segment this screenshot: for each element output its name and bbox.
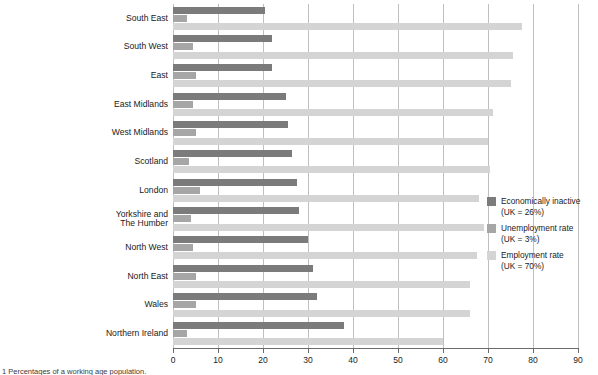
bar-unemp <box>173 158 189 165</box>
x-tick-label-50: 50 <box>383 355 413 365</box>
legend-label: Employment rate <box>501 250 595 261</box>
category-label: Scotland <box>0 157 168 167</box>
legend-item: Employment rate(UK = 70%) <box>487 250 595 271</box>
x-tick-label-10: 10 <box>203 355 233 365</box>
x-tick-label-30: 30 <box>293 355 323 365</box>
bar-inactive <box>173 293 317 300</box>
legend-sublabel: (UK = 26%) <box>501 207 595 218</box>
x-tick-label-90: 90 <box>563 355 593 365</box>
bar-employ <box>173 310 470 317</box>
bar-employ <box>173 80 511 87</box>
x-tick-label-20: 20 <box>248 355 278 365</box>
x-tick-label-60: 60 <box>428 355 458 365</box>
category-label-line: East Midlands <box>0 100 168 110</box>
legend-swatch-unemployment <box>487 224 496 233</box>
legend-swatch-inactive <box>487 197 496 206</box>
category-label: North West <box>0 243 168 253</box>
bar-inactive <box>173 150 292 157</box>
x-axis-line <box>173 348 578 349</box>
bar-employ <box>173 109 493 116</box>
bar-employ <box>173 281 470 288</box>
legend-label: Economically inactive <box>501 196 595 207</box>
bar-group <box>173 150 578 173</box>
bar-employ <box>173 52 513 59</box>
x-tick-60 <box>443 348 444 353</box>
bar-inactive <box>173 35 272 42</box>
bar-inactive <box>173 7 265 14</box>
bar-unemp <box>173 301 196 308</box>
x-tick-label-80: 80 <box>518 355 548 365</box>
bar-group <box>173 64 578 87</box>
x-tick-80 <box>533 348 534 353</box>
category-label-line: London <box>0 186 168 196</box>
category-label-line: South West <box>0 42 168 52</box>
legend-sublabel: (UK = 70%) <box>501 261 595 272</box>
bar-unemp <box>173 43 193 50</box>
category-label-line: Scotland <box>0 157 168 167</box>
bar-unemp <box>173 72 196 79</box>
bar-inactive <box>173 179 297 186</box>
legend-label: Unemployment rate <box>501 223 595 234</box>
category-label: Yorkshire andThe Humber <box>0 210 168 229</box>
category-label: Northern Ireland <box>0 329 168 339</box>
category-label-line: Northern Ireland <box>0 329 168 339</box>
x-tick-label-0: 0 <box>158 355 188 365</box>
bar-inactive <box>173 121 288 128</box>
bar-unemp <box>173 273 196 280</box>
legend-item: Unemployment rate(UK = 3%) <box>487 223 595 244</box>
category-label-line: East <box>0 71 168 81</box>
bar-inactive <box>173 64 272 71</box>
x-tick-10 <box>218 348 219 353</box>
bar-employ <box>173 23 522 30</box>
x-tick-0 <box>173 348 174 353</box>
bar-unemp <box>173 244 193 251</box>
chart-legend: Economically inactive(UK = 26%)Unemploym… <box>487 196 595 277</box>
category-label-line: South East <box>0 14 168 24</box>
category-label: East Midlands <box>0 100 168 110</box>
category-label: South East <box>0 14 168 24</box>
x-tick-30 <box>308 348 309 353</box>
bar-inactive <box>173 207 299 214</box>
category-label: Wales <box>0 300 168 310</box>
category-label: West Midlands <box>0 128 168 138</box>
chart-footnote: 1 Percentages of a working age populatio… <box>2 368 596 375</box>
bar-group <box>173 35 578 58</box>
x-tick-label-40: 40 <box>338 355 368 365</box>
bar-inactive <box>173 322 344 329</box>
bar-unemp <box>173 330 187 337</box>
legend-sublabel: (UK = 3%) <box>501 234 595 245</box>
category-label: South West <box>0 42 168 52</box>
bar-unemp <box>173 215 191 222</box>
category-label-line: The Humber <box>0 219 168 229</box>
bar-employ <box>173 138 488 145</box>
plot-area <box>173 4 578 348</box>
x-tick-90 <box>578 348 579 353</box>
bar-employ <box>173 166 490 173</box>
bar-inactive <box>173 93 286 100</box>
bar-employ <box>173 224 484 231</box>
bar-group <box>173 322 578 345</box>
category-label-line: North West <box>0 243 168 253</box>
category-label: North East <box>0 272 168 282</box>
bar-group <box>173 7 578 30</box>
bar-inactive <box>173 236 308 243</box>
bar-inactive <box>173 265 313 272</box>
legend-swatch-employment <box>487 251 496 260</box>
bar-unemp <box>173 15 187 22</box>
bar-unemp <box>173 187 200 194</box>
category-label: East <box>0 71 168 81</box>
x-tick-label-70: 70 <box>473 355 503 365</box>
category-label-line: West Midlands <box>0 128 168 138</box>
legend-item: Economically inactive(UK = 26%) <box>487 196 595 217</box>
x-tick-40 <box>353 348 354 353</box>
bar-unemp <box>173 101 193 108</box>
gridline-90 <box>578 4 579 348</box>
bar-group <box>173 121 578 144</box>
bar-employ <box>173 338 443 345</box>
bar-unemp <box>173 129 196 136</box>
category-label-line: North East <box>0 272 168 282</box>
regional-labour-market-bar-chart: South EastSouth WestEastEast MidlandsWes… <box>0 0 598 375</box>
category-label-line: Wales <box>0 300 168 310</box>
x-tick-20 <box>263 348 264 353</box>
category-label: London <box>0 186 168 196</box>
